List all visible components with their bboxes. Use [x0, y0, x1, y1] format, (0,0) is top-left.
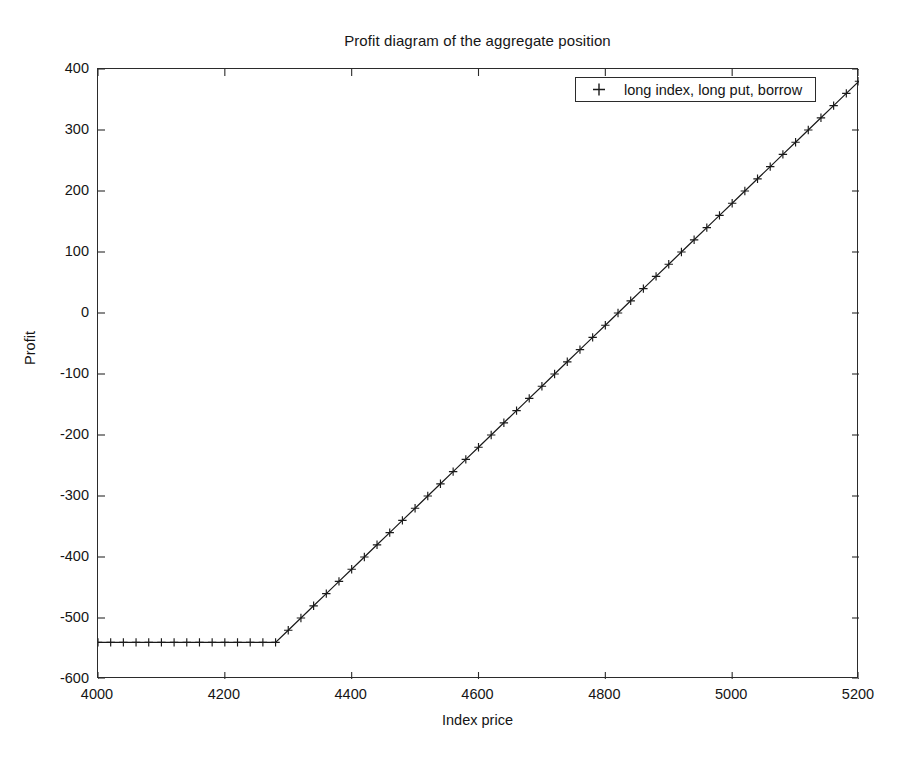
y-tick-label: 300	[65, 121, 89, 137]
legend-box: long index, long put, borrow	[575, 77, 816, 102]
x-tick-label: 4200	[208, 686, 240, 702]
x-tick-label: 4600	[461, 686, 493, 702]
x-tick-label: 4000	[81, 686, 113, 702]
y-tick-label: -200	[60, 426, 89, 442]
y-tick-label: -600	[60, 670, 89, 686]
y-tick-label: 0	[81, 304, 89, 320]
y-axis-tick-labels: -600-500-400-300-200-1000100200300400	[0, 68, 89, 678]
y-tick-label: 100	[65, 243, 89, 259]
y-tick-label: 400	[65, 60, 89, 76]
y-tick-label: -500	[60, 609, 89, 625]
x-axis-tick-labels: 4000420044004600480050005200	[97, 686, 858, 710]
page-title: Profit diagram of the aggregate position	[97, 32, 858, 49]
y-tick-label: -400	[60, 548, 89, 564]
plus-marker-icon	[576, 78, 622, 101]
series-line	[98, 81, 859, 642]
y-tick-label: -300	[60, 487, 89, 503]
series-markers	[98, 77, 859, 647]
x-tick-label: 5000	[715, 686, 747, 702]
plot-svg	[98, 69, 859, 679]
plot-area	[97, 68, 858, 678]
x-axis-label: Index price	[97, 712, 858, 728]
y-tick-label: 200	[65, 182, 89, 198]
y-tick-label: -100	[60, 365, 89, 381]
y-axis-label: Profit	[22, 298, 38, 398]
legend-entry-label: long index, long put, borrow	[622, 82, 806, 98]
data-series-group	[98, 77, 859, 647]
x-tick-label: 4400	[335, 686, 367, 702]
x-tick-label: 4800	[588, 686, 620, 702]
axis-ticks	[98, 69, 859, 679]
figure-canvas: Profit diagram of the aggregate position…	[0, 0, 907, 760]
x-tick-label: 5200	[842, 686, 874, 702]
